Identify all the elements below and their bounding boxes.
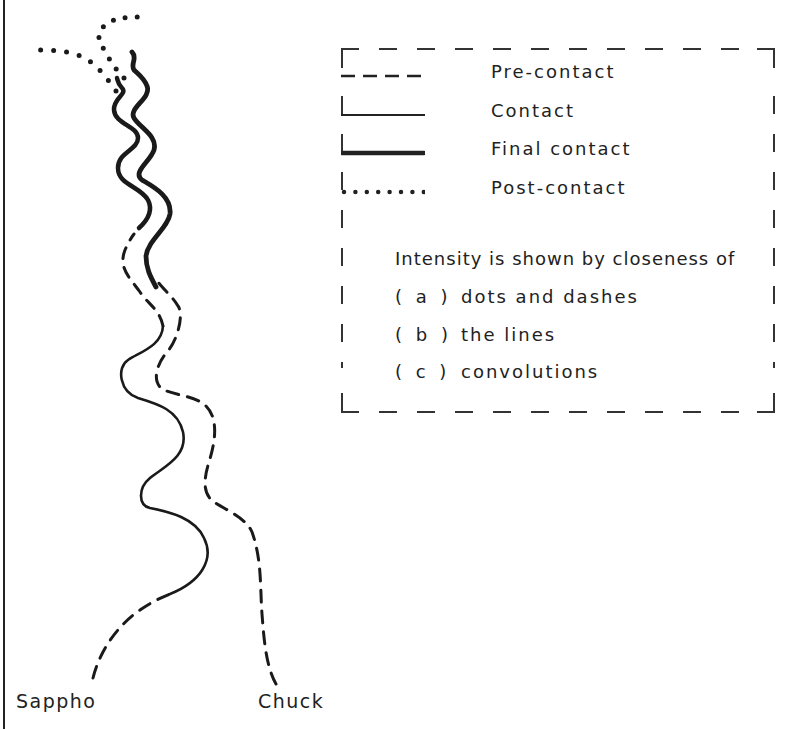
chuck-label: Chuck bbox=[258, 690, 324, 712]
note-text-b: the lines bbox=[461, 324, 556, 345]
intensity-note-item-c: ( c )convolutions bbox=[395, 361, 599, 382]
note-key-a: ( a ) bbox=[395, 286, 461, 307]
sappho-pre-contact-segment bbox=[93, 594, 170, 678]
intensity-note-item-a: ( a )dots and dashes bbox=[395, 286, 639, 307]
chuck-final-contact-segment bbox=[132, 52, 170, 287]
pre-contact-swatch-icon bbox=[341, 71, 425, 81]
legend-box: Pre-contact Contact Final contact Post-c… bbox=[341, 48, 775, 413]
note-key-b: ( b ) bbox=[395, 324, 461, 345]
note-key-c: ( c ) bbox=[395, 361, 461, 382]
legend-label-contact: Contact bbox=[491, 100, 575, 121]
sappho-contact-segment bbox=[121, 326, 207, 594]
chuck-pre-contact-segment bbox=[156, 282, 276, 684]
contact-swatch-icon bbox=[341, 110, 425, 120]
intensity-note-heading: Intensity is shown by closeness of bbox=[395, 248, 735, 269]
sappho-post-contact-segment bbox=[40, 50, 116, 91]
intensity-note-item-b: ( b )the lines bbox=[395, 324, 556, 345]
note-text-a: dots and dashes bbox=[461, 286, 639, 307]
chuck-post-contact-segment bbox=[99, 17, 148, 78]
post-contact-swatch-icon bbox=[341, 187, 425, 197]
legend-label-pre-contact: Pre-contact bbox=[491, 61, 615, 82]
sappho-label: Sappho bbox=[16, 690, 97, 712]
legend-label-final-contact: Final contact bbox=[491, 138, 632, 159]
sappho-path bbox=[40, 50, 208, 678]
legend-label-post-contact: Post-contact bbox=[491, 177, 627, 198]
final-contact-swatch-icon bbox=[341, 148, 425, 158]
note-text-c: convolutions bbox=[461, 361, 599, 382]
sappho-pre-contact-upper-segment bbox=[123, 234, 163, 326]
